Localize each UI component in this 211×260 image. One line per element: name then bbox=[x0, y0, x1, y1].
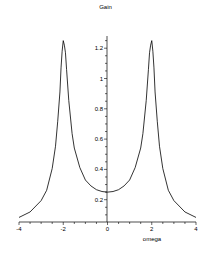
gain-plot: -4-20240.20.40.60.811.2 omega bbox=[0, 0, 211, 260]
y-tick-label: 1.2 bbox=[95, 45, 104, 51]
y-tick-label: 0.6 bbox=[95, 136, 104, 142]
x-tick-label: 2 bbox=[150, 226, 154, 232]
gain-curve bbox=[19, 41, 196, 218]
x-tick-label: 4 bbox=[194, 226, 198, 232]
x-tick-label: 0 bbox=[106, 226, 110, 232]
y-tick-label: 1 bbox=[100, 76, 104, 82]
axes: -4-20240.20.40.60.811.2 bbox=[16, 36, 198, 232]
x-axis-label: omega bbox=[143, 236, 162, 242]
y-tick-label: 0.2 bbox=[95, 197, 104, 203]
x-tick-label: -2 bbox=[61, 226, 67, 232]
y-tick-label: 0.4 bbox=[95, 166, 104, 172]
x-tick-label: -4 bbox=[16, 226, 22, 232]
y-tick-label: 0.8 bbox=[95, 106, 104, 112]
